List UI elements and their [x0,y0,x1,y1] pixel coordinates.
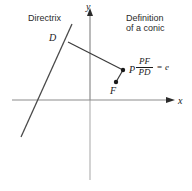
point-marker-f [114,80,118,84]
fraction-denominator: PD [138,68,152,77]
point-marker-p [121,68,125,72]
definition-caption-line-1: Definition [126,13,165,23]
point-label-f: F [110,85,116,97]
point-label-p: P [129,64,135,76]
fraction-pf-over-pd: PF PD [136,57,153,78]
segment-d-to-p [68,42,123,70]
x-axis-arrowhead-icon [166,97,175,103]
definition-caption: Definition of a conic [126,13,165,34]
directrix-label: Directrix [28,13,61,23]
definition-caption-line-2: of a conic [126,23,165,33]
fraction-numerator: PF [138,57,151,66]
ratio-formula: PF PD = e [136,57,169,78]
x-axis-label: x [178,95,182,107]
point-label-d: D [49,32,56,44]
equals-sign: = [157,62,162,72]
eccentricity-symbol: e [165,62,169,72]
conic-definition-figure: Directrix Definition of a conic D P F x … [0,0,192,191]
y-axis-label: y [86,1,90,13]
directrix-line [21,24,72,137]
